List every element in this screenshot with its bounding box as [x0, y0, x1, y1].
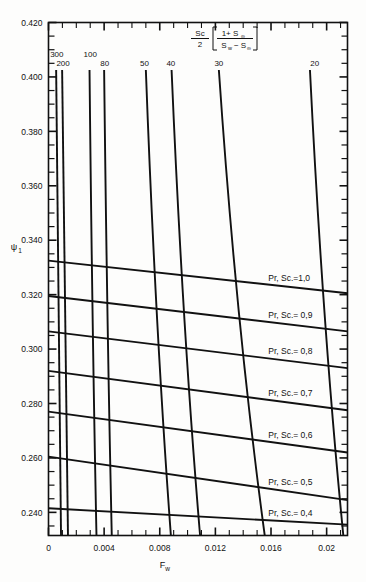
sc-parameter-curve-label: 30 — [214, 59, 223, 68]
y-axis-tick-label: 0.320 — [21, 290, 43, 300]
sc-parameter-curve-label: 200 — [56, 59, 70, 68]
sc-parameter-curve-label: 20 — [310, 59, 319, 68]
sc-parameter-curve — [146, 70, 171, 536]
pr-sc-line-label: Pr, Sc.= 0,7 — [268, 388, 312, 398]
pr-sc-line-label: Pr, Sc.= 0,6 — [268, 430, 312, 440]
legend-bracket-numerator: 1+ S — [222, 29, 239, 38]
pr-sc-line-label: Pr, Sc.= 0,5 — [268, 477, 312, 487]
x-axis-tick-label: 0.02 — [318, 543, 335, 553]
y-axis-tick-label: 0.380 — [21, 127, 43, 137]
sc-parameter-curve-label: 80 — [100, 59, 109, 68]
legend-formula-denominator: 2 — [198, 40, 203, 49]
y-axis-tick-label: 0.340 — [21, 235, 43, 245]
x-axis-tick-label: 0.016 — [260, 543, 282, 553]
y-axis-tick-label: 0.400 — [21, 72, 43, 82]
sc-parameter-curve — [310, 70, 343, 536]
pr-sc-line-label: Pr, Sc.=1,0 — [268, 273, 310, 283]
sc-parameter-curve-label: 100 — [84, 50, 98, 59]
y-axis-tick-label: 0.260 — [21, 453, 43, 463]
legend-formula-numerator: Sc — [195, 29, 204, 38]
legend-bracket-right — [253, 27, 257, 50]
sc-parameter-curve — [219, 70, 265, 536]
sc-parameter-curve-label: 50 — [140, 59, 149, 68]
y-axis-tick-label: 0.280 — [21, 399, 43, 409]
legend-bracket-numerator-subscript: ∞ — [241, 33, 245, 39]
legend-bracket-denominator-a: S — [221, 41, 226, 50]
y-axis-tick-label: 0.420 — [21, 18, 43, 28]
y-axis-tick-label: 0.360 — [21, 181, 43, 191]
psi1-vs-fw-chart: 0.2400.2600.2800.3000.3200.3400.3600.380… — [0, 0, 366, 582]
sc-parameter-curve — [90, 70, 97, 536]
x-axis-tick-label: 0.012 — [205, 543, 227, 553]
sc-parameter-curve — [62, 70, 68, 536]
pr-sc-line-label: Pr, Sc.= 0,9 — [268, 310, 312, 320]
chart-root: 0.2400.2600.2800.3000.3200.3400.3600.380… — [0, 0, 366, 582]
x-axis-tick-label: 0 — [46, 543, 51, 553]
legend-bracket-denominator-b-sub: ∞ — [247, 45, 251, 51]
pr-sc-line-label: Pr, Sc.= 0,8 — [268, 346, 312, 356]
x-axis-title-subscript: w — [164, 565, 170, 572]
x-axis-tick-label: 0.004 — [93, 543, 115, 553]
sc-parameter-curve-label: 40 — [166, 59, 175, 68]
y-axis-title: ψ — [11, 242, 17, 252]
pr-sc-line-label: Pr, Sc.= 0,4 — [268, 508, 312, 518]
legend-bracket-denominator-b: − S — [234, 41, 246, 50]
x-axis-tick-label: 0.008 — [149, 543, 171, 553]
sc-parameter-curve — [56, 70, 61, 536]
legend-bracket-denominator-a-sub: w — [227, 45, 232, 51]
y-axis-tick-label: 0.240 — [21, 508, 43, 518]
sc-parameter-curve-label: 300 — [50, 50, 64, 59]
y-axis-title-subscript: 1 — [18, 247, 22, 254]
y-axis-tick-label: 0.300 — [21, 344, 43, 354]
sc-parameter-curve — [172, 70, 201, 536]
